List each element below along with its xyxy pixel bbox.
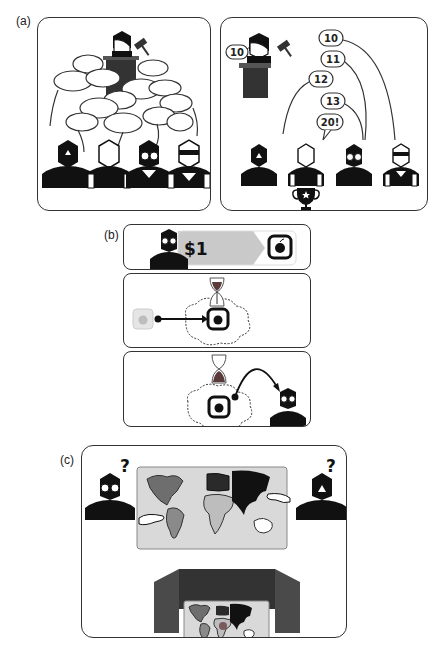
bidder-2-icon xyxy=(86,140,132,188)
pay-price-illustration: $1 xyxy=(124,225,311,270)
open-outcry-illustration xyxy=(38,18,211,211)
bidder-3-icon xyxy=(336,144,372,186)
price-label: $1 xyxy=(184,239,208,259)
apple-item-faded-icon xyxy=(133,309,153,329)
panel-a-left-open-outcry xyxy=(37,17,211,211)
panel-a-label: (a) xyxy=(16,14,31,28)
bidder-4-icon xyxy=(166,140,211,188)
sequential-bidding-illustration: 10 10 11 12 13 xyxy=(221,18,428,211)
bid-3: 12 xyxy=(314,74,328,85)
bidder-2-icon xyxy=(288,144,324,186)
bid-4: 13 xyxy=(326,96,340,107)
panel-b-pay-price: $1 xyxy=(123,224,311,270)
hourglass-empty-icon xyxy=(212,355,226,383)
gavel-icon xyxy=(277,40,296,60)
svg-text:10: 10 xyxy=(230,47,244,58)
trophy-icon xyxy=(293,188,319,210)
gavel-icon xyxy=(134,38,154,59)
bid-1: 10 xyxy=(324,33,338,44)
panel-a-right-sequential-bidding: 10 10 11 12 13 xyxy=(220,17,428,211)
bidder-3-icon xyxy=(126,140,172,188)
right-question-mark: ? xyxy=(326,456,336,476)
apple-item-icon xyxy=(269,236,291,258)
bid-2: 11 xyxy=(326,54,340,65)
bidder-4-icon xyxy=(383,144,419,186)
bid-5: 20! xyxy=(321,117,339,128)
panel-c-label: (c) xyxy=(60,453,74,467)
panel-b-label: (b) xyxy=(104,228,119,242)
hourglass-icon xyxy=(210,278,224,306)
panel-b-item-locked-timer xyxy=(123,273,311,348)
left-question-mark: ? xyxy=(120,456,130,476)
apple-item-icon xyxy=(209,397,229,417)
item-locked-illustration xyxy=(124,274,311,348)
panel-b-item-transferred xyxy=(123,351,311,427)
buyer-icon xyxy=(270,388,306,427)
auctioneer-icon xyxy=(239,33,271,98)
panel-c-world-map: ? ? xyxy=(81,445,347,638)
apple-item-icon xyxy=(208,309,228,329)
bidder-1-icon xyxy=(241,144,277,186)
world-map-illustration: ? ? xyxy=(82,446,347,638)
item-transferred-illustration xyxy=(124,352,311,427)
